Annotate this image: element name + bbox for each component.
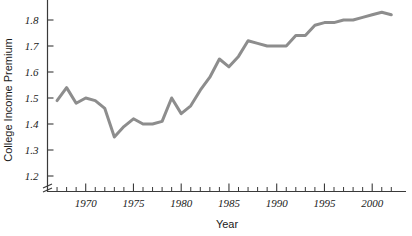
data-series-college-income-premium: [57, 12, 391, 137]
x-tick-label: 2000: [361, 197, 384, 209]
y-tick-label: 1.2: [25, 170, 39, 182]
x-tick-labels: 1970197519801985199019952000: [75, 197, 384, 209]
x-tick-label: 1970: [75, 197, 98, 209]
chart-figure: 1.21.31.41.51.61.71.8 197019751980198519…: [0, 0, 412, 236]
y-tick-label: 1.7: [25, 40, 39, 52]
y-tick-label: 1.3: [25, 144, 39, 156]
x-tick-label: 1980: [170, 197, 193, 209]
x-tick-label: 1990: [266, 197, 289, 209]
y-tick-label: 1.8: [25, 14, 39, 26]
y-tick-marks: [48, 20, 54, 176]
x-tick-label: 1975: [122, 197, 145, 209]
x-axis-group: 1970197519801985199019952000: [48, 184, 407, 210]
y-tick-labels: 1.21.31.41.51.61.71.8: [25, 14, 39, 182]
y-axis-title: College Income Premium: [2, 38, 14, 162]
x-tick-marks: [57, 184, 391, 192]
x-axis-title: Year: [216, 218, 239, 230]
line-chart-canvas: 1.21.31.41.51.61.71.8 197019751980198519…: [0, 0, 412, 236]
x-tick-label: 1995: [313, 197, 336, 209]
y-tick-label: 1.4: [25, 118, 39, 130]
y-tick-label: 1.6: [25, 66, 39, 78]
y-axis-group: 1.21.31.41.51.61.71.8: [25, 0, 54, 192]
y-tick-label: 1.5: [25, 92, 39, 104]
x-tick-label: 1985: [218, 197, 241, 209]
